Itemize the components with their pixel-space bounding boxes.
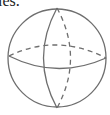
meridian-front [44, 8, 58, 108]
sphere-diagram [0, 0, 110, 115]
sphere-outline [8, 9, 106, 107]
equator-back-dashed [9, 45, 106, 58]
meridian-back-dashed [57, 8, 71, 108]
equator-front [9, 56, 106, 69]
